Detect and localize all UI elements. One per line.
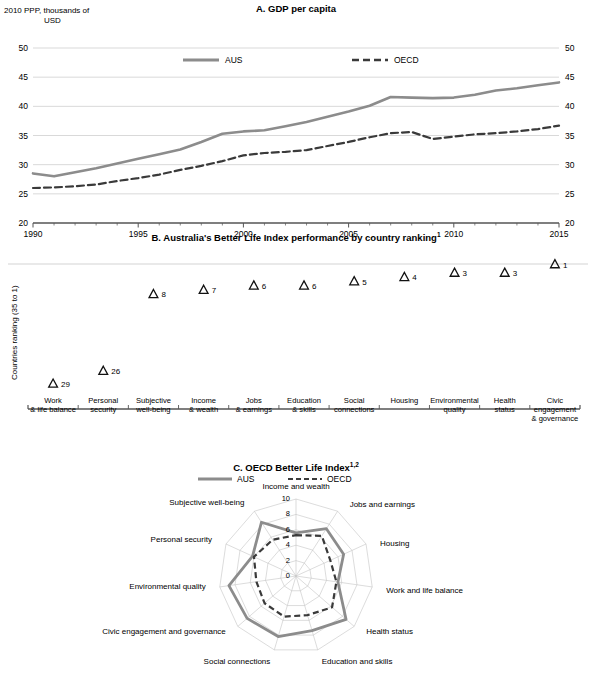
panel-b-data-label: 1 xyxy=(563,261,568,270)
panel-a-ytick-left: 25 xyxy=(19,189,29,199)
panel-a-ytick-left: 45 xyxy=(19,72,29,82)
panel-b-category-label: Housing xyxy=(379,396,429,405)
panel-b-data-label: 3 xyxy=(513,269,518,278)
panel-b-category-label-line1: Health xyxy=(480,396,530,405)
panel-a-plot: 2020252530303535404045455050199019952000… xyxy=(0,15,592,240)
panel-a-ytick-right: 35 xyxy=(565,131,575,141)
panel-b-category-label-line2: quality xyxy=(429,405,479,414)
panel-a-ytick-left: 30 xyxy=(19,160,29,170)
panel-c-axis-label: Civic engagement and governance xyxy=(102,627,226,636)
panel-b-plot: 2926876654331 xyxy=(0,244,592,474)
panel-c-axis-label: Income and wealth xyxy=(0,482,592,491)
panel-b-category-label-line2: connections xyxy=(329,405,379,414)
panel-c-axis-label: Subjective well-being xyxy=(169,498,244,507)
panel-b-category-label: Income& wealth xyxy=(179,396,229,414)
panel-b-category-label: Work& life balance xyxy=(28,396,78,414)
panel-b-marker xyxy=(249,281,258,289)
panel-b-marker xyxy=(300,281,309,289)
panel-c-radial-tick: 10 xyxy=(270,494,290,503)
panel-c-radar: C. OECD Better Life Index1,2 AUSOECD 024… xyxy=(0,455,592,676)
panel-b-category-label-line1: Housing xyxy=(379,396,429,405)
panel-c-radial-tick: 0 xyxy=(270,571,290,580)
panel-b-category-label-line2: & earnings xyxy=(229,405,279,414)
panel-b-category-label-line1: Social xyxy=(329,396,379,405)
panel-a-unit-label-line2: USD xyxy=(44,16,61,26)
panel-b-data-label: 6 xyxy=(262,282,267,291)
panel-a-ytick-right: 40 xyxy=(565,101,575,111)
panel-b-marker xyxy=(350,277,359,285)
panel-b-category-label: Healthstatus xyxy=(480,396,530,414)
panel-b-category-label: Personalsecurity xyxy=(78,396,128,414)
panel-b-data-label: 6 xyxy=(312,282,317,291)
panel-b-category-label: Civic engagement& governance xyxy=(530,396,580,423)
panel-c-radial-tick: 8 xyxy=(270,509,290,518)
panel-c-axis-label: Health status xyxy=(366,627,413,636)
panel-a-ytick-left: 50 xyxy=(19,43,29,53)
panel-c-axis-label: Personal security xyxy=(151,535,212,544)
panel-b-data-label: 29 xyxy=(61,380,70,389)
panel-b-title-text: B. Australia's Better Life Index perform… xyxy=(151,232,436,243)
panel-b-marker xyxy=(49,379,58,387)
panel-b-data-label: 5 xyxy=(362,278,367,287)
panel-b-marker xyxy=(450,268,459,276)
panel-b-category-label: Environmentalquality xyxy=(429,396,479,414)
panel-b-category-label-line1: Civic engagement xyxy=(530,396,580,414)
panel-b-category-label-line1: Jobs xyxy=(229,396,279,405)
panel-b-title-footnote: 1 xyxy=(437,231,441,238)
panel-b-category-label: Jobs& earnings xyxy=(229,396,279,414)
panel-a-ytick-right: 25 xyxy=(565,189,575,199)
panel-c-radial-tick: 2 xyxy=(270,556,290,565)
panel-b-category-label-line1: Personal xyxy=(78,396,128,405)
panel-a-unit-label-line1: 2010 PPP, thousands of xyxy=(4,6,89,16)
panel-b-data-label: 7 xyxy=(212,286,217,295)
panel-b-category-label-line2: security xyxy=(78,405,128,414)
panel-c-axis-label: Education and skills xyxy=(322,657,393,666)
panel-c-radial-tick: 4 xyxy=(270,540,290,549)
panel-c-axis-label: Jobs and earnings xyxy=(350,500,415,509)
panel-b-marker xyxy=(500,268,509,276)
panel-c-plot: AUSOECD xyxy=(0,473,592,673)
panel-b-marker xyxy=(199,285,208,293)
panel-b-category-label-line1: Work xyxy=(28,396,78,405)
panel-b-data-label: 3 xyxy=(463,269,468,278)
panel-b-category-label: Socialconnections xyxy=(329,396,379,414)
panel-a-legend-label-oecd: OECD xyxy=(394,55,419,65)
panel-c-title: C. OECD Better Life Index1,2 xyxy=(0,455,592,474)
panel-a-ytick-left: 40 xyxy=(19,101,29,111)
panel-b-category-label-line1: Subjective xyxy=(128,396,178,405)
panel-b-y-axis-label: Countries ranking (35 to 1) xyxy=(10,285,19,380)
panel-a-legend-label-aus: AUS xyxy=(225,55,243,65)
panel-b-category-label-line1: Environmental xyxy=(429,396,479,405)
panel-c-radial-tick: 6 xyxy=(270,525,290,534)
panel-b-data-label: 4 xyxy=(412,273,417,282)
panel-a-ytick-right: 30 xyxy=(565,160,575,170)
panel-b-category-label-line1: Education xyxy=(279,396,329,405)
panel-b-category-label-line2: status xyxy=(480,405,530,414)
panel-c-axis-label: Social connections xyxy=(204,657,271,666)
panel-c-axis-label: Housing xyxy=(380,539,409,548)
panel-b-category-label: Education& skills xyxy=(279,396,329,414)
panel-b-category-label: Subjectivewell-being xyxy=(128,396,178,414)
panel-a-ytick-right: 45 xyxy=(565,72,575,82)
panel-b-marker xyxy=(99,366,108,374)
panel-b-title: B. Australia's Better Life Index perform… xyxy=(0,225,592,244)
panel-c-axis-label: Work and life balance xyxy=(386,586,463,595)
panel-b-data-label: 8 xyxy=(161,291,166,300)
panel-a-ytick-left: 35 xyxy=(19,131,29,141)
panel-b-bli-ranking: B. Australia's Better Life Index perform… xyxy=(0,225,592,455)
panel-b-category-label-line2: & governance xyxy=(530,414,580,423)
panel-c-title-text: C. OECD Better Life Index xyxy=(233,462,350,473)
panel-b-data-label: 26 xyxy=(111,367,120,376)
panel-b-category-label-line2: well-being xyxy=(128,405,178,414)
panel-b-category-label-line2: & wealth xyxy=(179,405,229,414)
panel-a-series-aus xyxy=(33,82,559,176)
panel-b-category-label-line1: Income xyxy=(179,396,229,405)
panel-b-category-label-line2: & life balance xyxy=(28,405,78,414)
panel-b-marker xyxy=(400,273,409,281)
panel-c-axis-label: Environmental quality xyxy=(129,582,205,591)
panel-b-marker xyxy=(149,290,158,298)
panel-b-category-label-line2: & skills xyxy=(279,405,329,414)
panel-c-title-footnote: 1,2 xyxy=(350,461,359,468)
panel-a-series-oecd xyxy=(33,126,559,188)
panel-a-ytick-right: 50 xyxy=(565,43,575,53)
